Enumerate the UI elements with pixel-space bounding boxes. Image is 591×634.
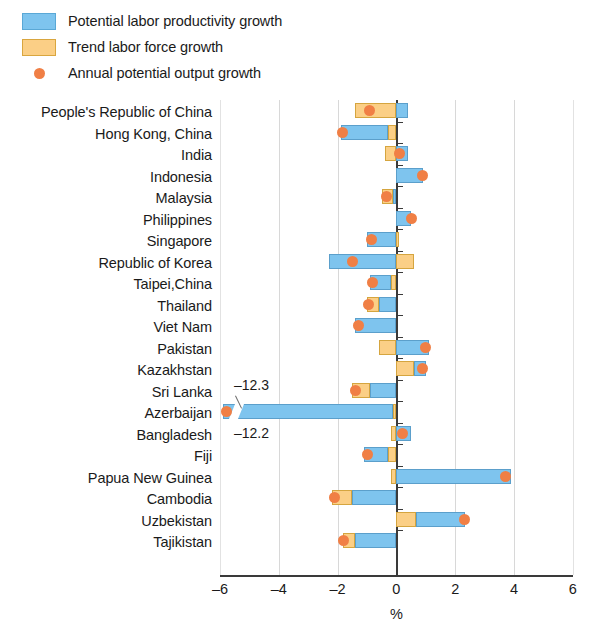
bar-row[interactable] [220,358,573,380]
category-label: Philippines [143,210,212,232]
output-growth-marker [417,170,428,181]
output-growth-marker [353,320,364,331]
bar-row[interactable] [220,165,573,187]
x-tick-label: 6 [553,581,591,597]
plot-canvas [220,100,573,575]
bar-row[interactable] [220,487,573,509]
legend-label: Trend labor force growth [68,39,223,55]
annotation-label: –12.2 [234,425,269,441]
bar-segment-productivity [355,533,396,548]
output-growth-marker [406,213,417,224]
chart-legend: Potential labor productivity growthTrend… [22,8,442,86]
category-label: Pakistan [157,339,212,361]
bar-row[interactable] [220,530,573,552]
bar-segment-productivity [416,512,466,527]
bar-segment-laborforce [355,103,396,118]
x-tick-label: –2 [318,581,358,597]
category-label: Fiji [194,446,212,468]
legend-marker-wrapper [22,65,56,82]
bar-segment-laborforce [391,275,397,290]
category-label: Taipei,China [133,274,212,296]
bar-row[interactable] [220,100,573,122]
category-label: Uzbekistan [141,511,212,533]
x-tick-label: 4 [494,581,534,597]
bar-segment-productivity [223,404,393,419]
output-growth-marker [500,471,511,482]
x-tick-label: –6 [200,581,240,597]
legend-label: Annual potential output growth [68,65,261,81]
category-label: Viet Nam [153,317,212,339]
bar-segment-productivity [370,383,396,398]
bar-segment-laborforce [396,361,414,376]
bar-row[interactable] [220,186,573,208]
category-label: Indonesia [150,167,212,189]
output-growth-marker [221,406,232,417]
output-growth-marker [366,234,377,245]
bar-row[interactable] [220,337,573,359]
bar-segment-productivity [379,297,397,312]
output-growth-marker [459,514,470,525]
output-growth-marker [337,127,348,138]
output-growth-marker [350,385,361,396]
bar-segment-productivity [352,490,396,505]
output-growth-marker [417,363,428,374]
x-tick-label: 2 [435,581,475,597]
bar-segment-laborforce [379,340,397,355]
category-label: Sri Lanka [152,382,212,404]
category-label: Hong Kong, China [95,124,212,146]
output-growth-marker [394,148,405,159]
legend-label: Potential labor productivity growth [68,13,282,29]
category-label: Republic of Korea [98,253,212,275]
bar-row[interactable] [220,401,573,423]
category-label: Singapore [147,231,212,253]
orange-square-swatch [22,39,56,56]
bar-row[interactable] [220,272,573,294]
x-axis-title: % [376,606,416,622]
bar-row[interactable] [220,380,573,402]
output-growth-marker [381,191,392,202]
bar-segment-laborforce [393,404,396,419]
bar-segment-productivity [393,189,396,204]
bar-row[interactable] [220,315,573,337]
bar-segment-laborforce [388,447,397,462]
x-axis-line [220,575,573,577]
category-label: Thailand [157,296,212,318]
annotation-label: –12.3 [234,377,269,393]
bar-row[interactable] [220,229,573,251]
output-growth-marker [338,535,349,546]
bar-row[interactable] [220,466,573,488]
bar-segment-laborforce [388,125,397,140]
category-label: Malaysia [156,188,212,210]
category-label: India [181,145,212,167]
bar-row[interactable] [220,423,573,445]
bar-row[interactable] [220,122,573,144]
category-label: People's Republic of China [41,102,212,124]
category-label: Kazakhstan [137,360,212,382]
category-label: Cambodia [147,489,212,511]
output-growth-marker [362,449,373,460]
x-tick-label: 0 [376,581,416,597]
bar-segment-productivity [341,125,388,140]
output-growth-marker [363,299,374,310]
blue-square-swatch [22,13,56,30]
bar-segment-productivity [396,103,408,118]
bar-row[interactable] [220,509,573,531]
bar-row[interactable] [220,208,573,230]
bar-row[interactable] [220,143,573,165]
category-label: Bangladesh [136,425,212,447]
bar-row[interactable] [220,294,573,316]
category-label: Azerbaijan [144,403,212,425]
bar-segment-laborforce [396,232,399,247]
output-growth-marker [397,428,408,439]
legend-item[interactable]: Potential labor productivity growth [22,8,442,34]
bar-row[interactable] [220,251,573,273]
output-growth-marker [420,342,431,353]
x-tick-label: –4 [259,581,299,597]
legend-item[interactable]: Trend labor force growth [22,34,442,60]
bar-segment-laborforce [396,512,415,527]
bar-segment-laborforce [396,254,414,269]
bar-segment-productivity [396,469,511,484]
bar-row[interactable] [220,444,573,466]
plot-area: People's Republic of ChinaHong Kong, Chi… [0,100,591,634]
legend-item[interactable]: Annual potential output growth [22,60,442,86]
